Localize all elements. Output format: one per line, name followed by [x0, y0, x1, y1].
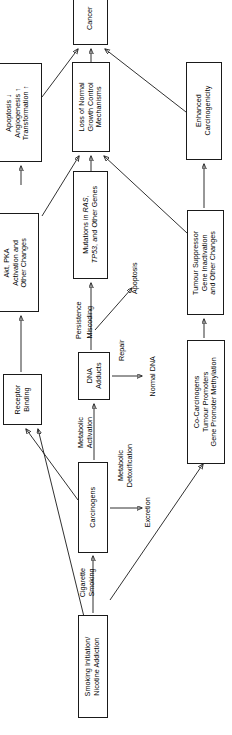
node-smoking-initiation[interactable]: Smoking Initiation/Nicotine Addiction	[78, 615, 108, 718]
edge-label-normal-dna: Normal DNA	[130, 356, 176, 396]
node-enhanced-carcinogenicity[interactable]: EnhancedCarcinogenicity	[186, 62, 222, 160]
flowchart-canvas: Cancer Apoptosis ↓Angiogenesis ↑Transfor…	[0, 0, 232, 735]
edge-label-apoptosis: Apoptosis	[116, 258, 156, 298]
edge-label-normal-dna-text: Normal DNA	[149, 356, 158, 396]
edge-label-repair-text: Repair	[119, 339, 128, 360]
node-co-carcinogens-label: Co-CarcinogensTumour PromotersGene Promo…	[193, 357, 219, 446]
edge-label-miscoding-text: Miscoding	[86, 306, 95, 338]
node-tumour-suppressor-label: Tumour SuppressorGene Inactivationand Ot…	[193, 230, 219, 294]
node-receptor-binding[interactable]: ReceptorBinding	[3, 374, 42, 425]
edge-label-excretion-text: Excretion	[144, 497, 153, 527]
edge-label-apoptosis-text: Apoptosis	[132, 262, 141, 294]
edge-label-metabolic-detoxification-text: MetabolicDetoxification	[117, 444, 134, 487]
node-mutations[interactable]: Mutations in RAS,TP53, and Other Genes	[73, 171, 108, 279]
edge-label-cigarette-smoking-text: CigaretteSmoking	[79, 568, 96, 597]
node-cancer[interactable]: Cancer	[73, 0, 108, 45]
node-tumour-suppressor[interactable]: Tumour SuppressorGene Inactivationand Ot…	[187, 210, 224, 315]
node-smoking-initiation-label: Smoking Initiation/Nicotine Addiction	[84, 637, 101, 697]
node-dna-adducts-label: DNAAdducts	[85, 363, 102, 389]
edge-label-cigarette-smoking: CigaretteSmoking	[65, 560, 111, 606]
node-mutations-label: Mutations in RAS,TP53, and Other Genes	[82, 186, 99, 263]
node-apoptosis-angiogenesis[interactable]: Apoptosis ↓Angiogenesis ↑Transformation …	[0, 63, 42, 162]
node-enhanced-carcinogenicity-label: EnhancedCarcinogenicity	[195, 86, 212, 136]
node-loss-of-growth-control[interactable]: Loss of NormalGrowth ControlMechanisms	[72, 62, 110, 152]
edge-label-metabolic-activation-text: MetabolicActivation	[77, 417, 94, 448]
edge-label-metabolic-detoxification: MetabolicDetoxification	[100, 440, 152, 492]
node-apoptosis-angiogenesis-label: Apoptosis ↓Angiogenesis ↑Transformation …	[5, 85, 31, 139]
node-akt-pka-activation[interactable]: Akt, PKAActivation andOther Changes	[0, 213, 39, 312]
node-akt-pka-activation-label: Akt, PKAActivation andOther Changes	[3, 238, 29, 287]
node-receptor-binding-label: ReceptorBinding	[14, 385, 31, 415]
edge-label-excretion: Excretion	[128, 492, 168, 532]
node-carcinogens-label: Carcinogens	[89, 487, 98, 528]
node-loss-of-growth-control-label: Loss of NormalGrowth ControlMechanisms	[78, 82, 104, 131]
node-cancer-label: Cancer	[86, 7, 95, 30]
node-co-carcinogens[interactable]: Co-CarcinogensTumour PromotersGene Promo…	[187, 340, 225, 464]
